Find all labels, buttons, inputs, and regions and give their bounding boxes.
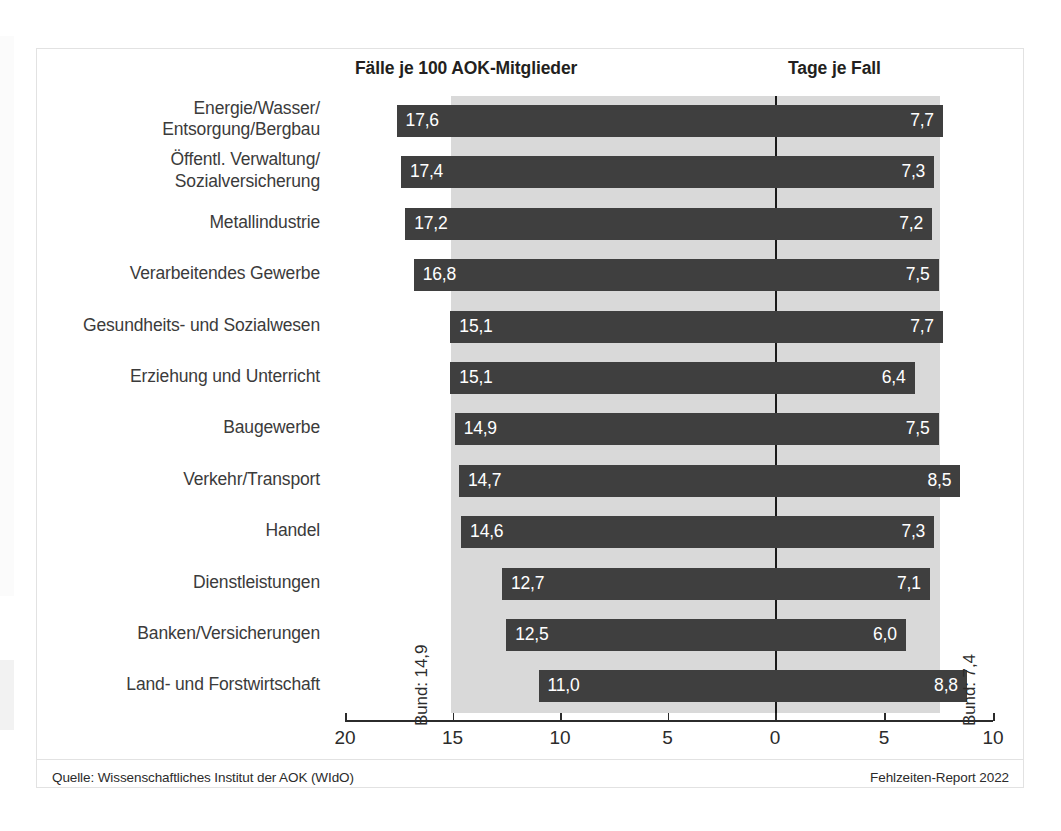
column-header-left: Fälle je 100 AOK-Mitglieder [355,58,577,79]
row-category-label: Metallindustrie [10,212,320,233]
row-category-label: Banken/Versicherungen [10,623,320,644]
bar-faelle: 11,0 [539,670,776,702]
column-header-right: Tage je Fall [788,58,881,79]
bar-faelle: 14,7 [459,465,775,497]
chart-row: Verarbeitendes Gewerbe16,87,5 [0,250,1061,301]
row-category-label: Dienstleistungen [10,572,320,593]
row-category-label: Verarbeitendes Gewerbe [10,263,320,284]
row-category-label: Land- und Forstwirtschaft [10,674,320,695]
chart-row: Handel14,67,3 [0,507,1061,558]
footer-divider [37,759,1023,760]
bar-tage: 7,3 [775,156,934,188]
footer-source-text: Quelle: Wissenschaftliches Institut der … [52,770,354,785]
bar-faelle: 15,1 [450,362,775,394]
bar-value-faelle: 15,1 [459,316,492,337]
bar-faelle: 14,9 [455,413,775,445]
axis-tick-mark [668,713,670,721]
bar-value-tage: 7,3 [901,521,925,542]
chart-row: Metallindustrie17,27,2 [0,199,1061,250]
bar-value-faelle: 17,2 [414,213,447,234]
axis-tick-label: 0 [770,727,781,749]
bar-faelle: 16,8 [414,259,775,291]
row-category-label: Erziehung und Unterricht [10,366,320,387]
bar-value-tage: 6,4 [882,367,906,388]
bar-value-faelle: 12,7 [511,573,544,594]
bund-reference-label-right: Bund: 7,4 [960,654,980,726]
bar-tage: 6,0 [775,619,906,651]
bar-tage: 7,7 [775,311,943,343]
bar-tage: 7,1 [775,568,930,600]
bar-tage: 6,4 [775,362,915,394]
bar-value-faelle: 14,9 [464,418,497,439]
bar-tage: 7,5 [775,413,939,445]
row-category-label: Handel [10,520,320,541]
bar-value-faelle: 14,7 [468,470,501,491]
bar-value-faelle: 16,8 [423,264,456,285]
chart-row: Dienstleistungen12,77,1 [0,559,1061,610]
chart-row: Gesundheits- und Sozialwesen15,17,7 [0,302,1061,353]
bar-faelle: 17,4 [401,156,775,188]
axis-tick-label: 15 [442,727,463,749]
bar-value-tage: 7,5 [906,264,930,285]
chart-row: Energie/Wasser/Entsorgung/Bergbau17,67,7 [0,96,1061,147]
bar-value-tage: 8,5 [928,470,952,491]
bar-tage: 7,5 [775,259,939,291]
bund-reference-label-left: Bund: 14,9 [412,645,432,726]
chart-row: Banken/Versicherungen12,56,0 [0,610,1061,661]
bar-faelle: 15,1 [450,311,775,343]
axis-tick-mark [884,713,886,721]
bar-faelle: 14,6 [461,516,775,548]
axis-tick-mark [775,713,777,721]
bar-value-tage: 7,7 [910,316,934,337]
chart-row: Öffentl. Verwaltung/Sozialversicherung17… [0,147,1061,198]
row-category-label: Baugewerbe [10,417,320,438]
chart-row: Erziehung und Unterricht15,16,4 [0,353,1061,404]
axis-tick-label: 20 [334,727,355,749]
axis-tick-mark [453,713,455,721]
bar-faelle: 12,7 [502,568,775,600]
bar-value-tage: 7,1 [897,573,921,594]
row-category-label: Öffentl. Verwaltung/Sozialversicherung [10,149,320,192]
bar-tage: 8,5 [775,465,960,497]
axis-tick-mark [560,713,562,721]
bar-tage: 8,8 [775,670,967,702]
bar-faelle: 17,6 [397,105,775,137]
bar-faelle: 12,5 [506,619,775,651]
bar-tage: 7,3 [775,516,934,548]
bar-value-tage: 7,3 [901,161,925,182]
bar-tage: 7,7 [775,105,943,137]
chart-plot-area: Fälle je 100 AOK-Mitglieder Tage je Fall… [0,0,1061,831]
bar-value-faelle: 14,6 [470,521,503,542]
bar-value-faelle: 15,1 [459,367,492,388]
bar-value-tage: 6,0 [873,624,897,645]
bar-value-faelle: 11,0 [548,675,580,696]
bar-value-tage: 7,2 [899,213,923,234]
bar-value-tage: 7,5 [906,418,930,439]
axis-tick-label: 5 [662,727,673,749]
bar-faelle: 17,2 [405,208,775,240]
axis-tick-mark [345,713,347,721]
bar-value-faelle: 12,5 [515,624,548,645]
bar-value-faelle: 17,4 [410,161,443,182]
bar-value-faelle: 17,6 [406,110,439,131]
row-category-label: Energie/Wasser/Entsorgung/Bergbau [10,98,320,141]
axis-tick-mark [993,713,995,721]
bar-value-tage: 8,8 [934,675,958,696]
row-category-label: Gesundheits- und Sozialwesen [10,315,320,336]
bar-tage: 7,2 [775,208,932,240]
chart-row: Verkehr/Transport14,78,5 [0,456,1061,507]
axis-tick-label: 5 [879,727,890,749]
chart-row: Land- und Forstwirtschaft11,08,8 [0,661,1061,712]
axis-tick-label: 10 [982,727,1003,749]
footer-report-text: Fehlzeiten-Report 2022 [870,770,1009,785]
bar-value-tage: 7,7 [910,110,934,131]
row-category-label: Verkehr/Transport [10,469,320,490]
chart-row: Baugewerbe14,97,5 [0,404,1061,455]
axis-tick-label: 10 [549,727,570,749]
